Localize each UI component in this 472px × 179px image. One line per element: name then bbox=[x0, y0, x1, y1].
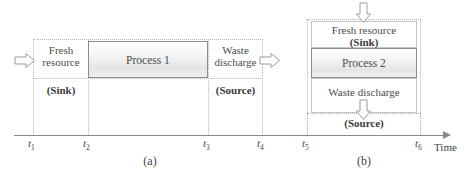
panel-a-source-label: (Source) bbox=[209, 84, 262, 96]
tick-label-t4: t4 bbox=[257, 137, 264, 152]
panel-a-fresh-resource-label: Fresh resource bbox=[35, 44, 87, 69]
panel-a-boundary-top bbox=[33, 39, 263, 40]
figure-root: Process 1 Fresh resource (Sink) Waste di… bbox=[0, 0, 472, 179]
tick-t6-sub: 6 bbox=[418, 143, 422, 152]
fresh-resource-line1: Fresh bbox=[35, 44, 87, 56]
panel-b-waste-discharge-outlet-arrow bbox=[355, 99, 372, 121]
panel-b-guide-t5 bbox=[307, 19, 308, 135]
time-axis-line bbox=[14, 135, 445, 136]
time-axis-arrowhead bbox=[443, 131, 451, 139]
process-2-label: Process 2 bbox=[342, 57, 386, 69]
tick-label-t3: t3 bbox=[203, 137, 210, 152]
fresh-resource-line2: resource bbox=[35, 56, 87, 68]
process-1-box: Process 1 bbox=[88, 41, 208, 78]
process-2-box: Process 2 bbox=[311, 48, 417, 78]
tick-t3-sub: 3 bbox=[206, 143, 210, 152]
waste-discharge-line2: discharge bbox=[209, 56, 262, 68]
panel-b-caption: (b) bbox=[334, 154, 394, 169]
waste-discharge-line1: Waste bbox=[209, 44, 262, 56]
time-axis-label: Time bbox=[434, 141, 457, 153]
tick-label-t2: t2 bbox=[83, 137, 90, 152]
panel-a-waste-discharge-outlet-arrow bbox=[259, 52, 281, 69]
panel-b-fresh-resource-label: Fresh resource bbox=[311, 24, 417, 36]
tick-t2-sub: 2 bbox=[86, 143, 90, 152]
tick-t1-sub: 1 bbox=[31, 143, 35, 152]
panel-a-fresh-resource-inlet-arrow bbox=[14, 52, 36, 69]
panel-a-waste-discharge-label: Waste discharge bbox=[209, 44, 262, 69]
process-1-label: Process 1 bbox=[126, 54, 170, 66]
panel-b-sink-label: (Sink) bbox=[311, 36, 417, 48]
panel-b-guide-t6 bbox=[420, 19, 421, 135]
tick-t4-sub: 4 bbox=[260, 143, 264, 152]
panel-a-caption: (a) bbox=[120, 154, 180, 169]
tick-label-t5: t5 bbox=[302, 137, 309, 152]
panel-b-waste-discharge-label: Waste discharge bbox=[311, 86, 417, 98]
tick-t5-sub: 5 bbox=[305, 143, 309, 152]
tick-label-t6: t6 bbox=[415, 137, 422, 152]
panel-a-boundary-middle bbox=[33, 78, 263, 79]
panel-b-fresh-resource-inlet-arrow bbox=[355, 2, 372, 24]
panel-a-sink-label: (Sink) bbox=[35, 84, 87, 96]
tick-label-t1: t1 bbox=[28, 137, 35, 152]
